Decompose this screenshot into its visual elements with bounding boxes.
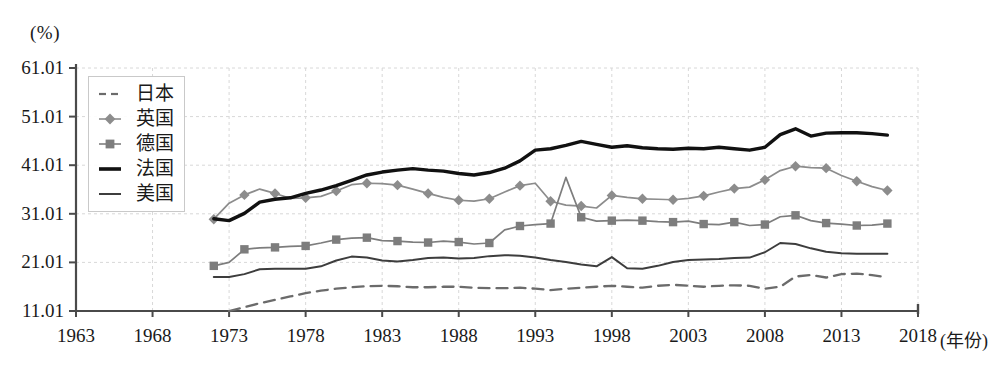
legend-label-uk: 英国 bbox=[136, 109, 174, 128]
y-axis-tick-label: 11.01 bbox=[0, 300, 64, 322]
x-axis-tick-label: 2013 bbox=[822, 325, 860, 347]
legend-label-usa: 美国 bbox=[136, 184, 174, 203]
x-axis-tick-label: 1978 bbox=[287, 325, 325, 347]
legend-item-uk[interactable]: 英国 bbox=[97, 106, 174, 131]
y-axis-tick-label: 41.01 bbox=[0, 154, 64, 176]
y-axis-tick-label: 51.01 bbox=[0, 106, 64, 128]
data-point-marker bbox=[853, 221, 861, 229]
x-axis-tick-label: 1963 bbox=[57, 325, 95, 347]
data-point-marker bbox=[240, 245, 248, 253]
thick-line-swatch bbox=[97, 159, 131, 179]
data-point-marker bbox=[791, 211, 799, 219]
data-point-marker bbox=[882, 185, 892, 195]
data-point-marker bbox=[608, 216, 616, 224]
data-point-marker bbox=[669, 218, 677, 226]
x-axis-tick-label: 2003 bbox=[669, 325, 707, 347]
data-point-marker bbox=[455, 238, 463, 246]
data-point-marker bbox=[270, 188, 280, 198]
legend-item-japan[interactable]: 日本 bbox=[97, 81, 174, 106]
data-point-marker bbox=[239, 190, 249, 200]
data-point-marker bbox=[363, 233, 371, 241]
data-point-marker bbox=[852, 176, 862, 186]
x-axis-unit-label: (年份) bbox=[940, 326, 988, 352]
data-point-marker bbox=[485, 239, 493, 247]
legend-label-japan: 日本 bbox=[136, 84, 174, 103]
data-point-marker bbox=[484, 194, 494, 204]
data-point-marker bbox=[210, 262, 218, 270]
data-point-marker bbox=[516, 222, 524, 230]
x-axis-tick-label: 1988 bbox=[440, 325, 478, 347]
thin-line-swatch bbox=[97, 184, 131, 204]
x-axis-tick-label: 2018 bbox=[899, 325, 937, 347]
series-line-法国 bbox=[214, 129, 888, 221]
data-point-marker bbox=[637, 194, 647, 204]
x-axis-tick-label: 1983 bbox=[363, 325, 401, 347]
data-point-marker bbox=[761, 220, 769, 228]
data-point-marker bbox=[301, 242, 309, 250]
data-point-marker bbox=[821, 163, 831, 173]
legend-item-germany[interactable]: 德国 bbox=[97, 131, 174, 156]
legend-item-usa[interactable]: 美国 bbox=[97, 181, 174, 206]
data-point-marker bbox=[790, 161, 800, 171]
y-axis-tick-label: 31.01 bbox=[0, 203, 64, 225]
data-point-marker bbox=[668, 195, 678, 205]
x-axis-tick-label: 1998 bbox=[593, 325, 631, 347]
legend-item-france[interactable]: 法国 bbox=[97, 156, 174, 181]
data-point-marker bbox=[638, 216, 646, 224]
data-point-marker bbox=[393, 237, 401, 245]
x-axis-tick-label: 1968 bbox=[134, 325, 172, 347]
legend-label-france: 法国 bbox=[136, 159, 174, 178]
data-point-marker bbox=[698, 191, 708, 201]
data-point-marker bbox=[760, 175, 770, 185]
y-axis-tick-label: 61.01 bbox=[0, 57, 64, 79]
data-point-marker bbox=[546, 219, 554, 227]
data-point-marker bbox=[729, 183, 739, 193]
data-point-marker bbox=[454, 195, 464, 205]
x-axis-tick-label: 2008 bbox=[746, 325, 784, 347]
legend-label-germany: 德国 bbox=[136, 134, 174, 153]
data-point-marker bbox=[883, 219, 891, 227]
data-point-marker bbox=[332, 235, 340, 243]
data-point-marker bbox=[730, 218, 738, 226]
legend: 日本 英国 德国 法国 美国 bbox=[88, 76, 185, 212]
series-line-美国 bbox=[214, 243, 888, 277]
x-axis-tick-label: 1973 bbox=[210, 325, 248, 347]
data-point-marker bbox=[577, 213, 585, 221]
data-point-marker bbox=[424, 238, 432, 246]
series-line-日本 bbox=[229, 274, 887, 311]
y-axis-tick-label: 21.01 bbox=[0, 251, 64, 273]
data-point-marker bbox=[515, 180, 525, 190]
data-point-marker bbox=[362, 178, 372, 188]
diamond-marker-line-swatch bbox=[97, 109, 131, 129]
data-point-marker bbox=[822, 219, 830, 227]
data-point-marker bbox=[392, 180, 402, 190]
x-axis-tick-label: 1993 bbox=[516, 325, 554, 347]
data-point-marker bbox=[271, 243, 279, 251]
data-point-marker bbox=[699, 220, 707, 228]
dashed-line-swatch bbox=[97, 84, 131, 104]
square-marker-line-swatch bbox=[97, 134, 131, 154]
data-point-marker bbox=[423, 188, 433, 198]
